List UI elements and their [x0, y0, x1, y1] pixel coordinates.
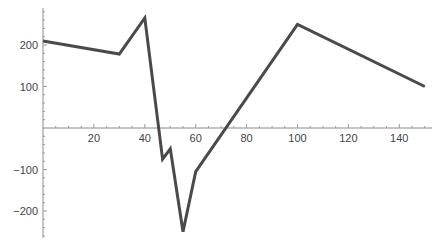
x-tick-label: 120: [339, 132, 357, 144]
y-tick-label: −200: [13, 205, 38, 217]
ticks: [43, 12, 425, 236]
x-tick-label: 40: [139, 132, 151, 144]
x-tick-label: 140: [390, 132, 408, 144]
line-chart: 20406080100120140−200−100100200: [0, 0, 444, 252]
x-tick-label: 80: [240, 132, 252, 144]
plot-area: [43, 18, 425, 232]
y-tick-label: 200: [20, 39, 38, 51]
x-tick-label: 100: [288, 132, 306, 144]
series-line: [43, 18, 425, 232]
x-tick-label: 20: [88, 132, 100, 144]
x-tick-label: 60: [190, 132, 202, 144]
y-tick-label: 100: [20, 81, 38, 93]
axes: [43, 8, 432, 238]
y-tick-label: −100: [13, 164, 38, 176]
